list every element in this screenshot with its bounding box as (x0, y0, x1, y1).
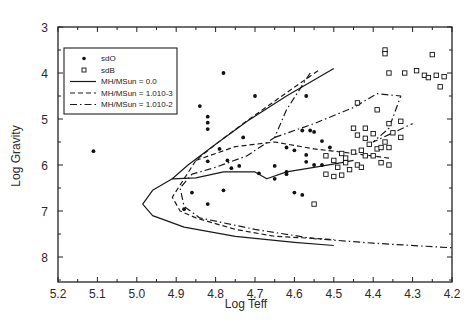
x-tick-label: 4.5 (325, 287, 342, 301)
sdo-point (304, 153, 308, 157)
legend: sdOsdBMH/MSun = 0.0MH/MSun = 1.010-3MH/M… (64, 48, 177, 114)
sdb-point (438, 85, 442, 89)
chart-canvas: 5.25.15.04.94.84.74.64.54.44.34.2345678 … (0, 0, 475, 334)
x-tick-label: 4.9 (168, 287, 185, 301)
sdb-point (355, 101, 359, 105)
sdb-point (359, 148, 363, 152)
sdo-point (92, 149, 96, 153)
sdo-point (293, 148, 297, 152)
sdo-point (222, 71, 226, 75)
sdb-point (324, 154, 328, 158)
legend-label: sdB (101, 66, 115, 75)
sdo-point (198, 104, 202, 108)
x-tick-label: 4.3 (404, 287, 421, 301)
sdb-point (363, 126, 367, 130)
sdb-point (399, 135, 403, 139)
sdo-point (206, 159, 210, 163)
sdb-point (399, 119, 403, 123)
sdb-point (347, 167, 351, 171)
sdb-point (387, 121, 391, 125)
sdb-point (359, 165, 363, 169)
x-tick-label: 4.2 (444, 287, 461, 301)
y-tick-label: 3 (41, 21, 48, 35)
sdb-point (339, 173, 343, 177)
sdo-point (320, 163, 324, 167)
x-tick-label: 5.2 (50, 287, 67, 301)
x-tick-label: 5.0 (128, 287, 145, 301)
sdb-point (375, 108, 379, 112)
sdo-point (320, 139, 324, 143)
sdo-point (285, 172, 289, 176)
x-tick-label: 4.6 (286, 287, 303, 301)
sdb-point (339, 151, 343, 155)
model-track-dashed (172, 71, 333, 240)
sdo-point (304, 160, 308, 164)
sdb-point (391, 131, 395, 135)
sdb-point (367, 142, 371, 146)
sdo-point (218, 147, 222, 151)
sdb-point (383, 51, 387, 55)
sdb-point (343, 156, 347, 160)
sdb-point (383, 140, 387, 144)
y-tick-label: 5 (41, 113, 48, 127)
model-track-solid (143, 179, 334, 246)
y-tick-label: 4 (41, 67, 48, 81)
sdb-point (434, 73, 438, 77)
model-track-dash-dot (180, 73, 452, 248)
sdb-point (387, 163, 391, 167)
sdo-point (300, 193, 304, 197)
legend-label: MH/MSun = 0.0 (101, 77, 157, 86)
x-tick-label: 4.4 (365, 287, 382, 301)
sdo-point (304, 94, 308, 98)
y-tick-label: 8 (41, 251, 48, 265)
sdo-point (206, 115, 210, 119)
sdb-point (371, 154, 375, 158)
sdo-point (182, 207, 186, 211)
sdb-point (387, 71, 391, 75)
sdo-point (293, 191, 297, 195)
sdo-point (226, 159, 230, 163)
y-tick-label: 6 (41, 159, 48, 173)
sdo-point (273, 177, 277, 181)
sdb-point (363, 136, 367, 140)
legend-label: MH/MSun = 1.010-2 (101, 100, 173, 109)
sdb-point (336, 165, 340, 169)
x-axis-title: Log Teff (225, 297, 268, 311)
sdo-point (222, 188, 226, 192)
sdo-point (328, 146, 332, 150)
sdo-point (273, 164, 277, 168)
sdb-point (363, 154, 367, 158)
sdb-point (379, 161, 383, 165)
x-tick-label: 4.8 (207, 287, 224, 301)
model-track-solid (172, 68, 353, 178)
sdb-point (332, 158, 336, 162)
x-tick-label: 5.1 (89, 287, 106, 301)
sdo-point (253, 94, 257, 98)
sdb-point (355, 133, 359, 137)
sdb-point (403, 71, 407, 75)
sdo-point (237, 164, 241, 168)
sdb-point (343, 161, 347, 165)
sdo-point (190, 191, 194, 195)
sdo-point (257, 171, 261, 175)
sdb-point (414, 69, 418, 73)
sdo-point (241, 136, 245, 140)
sdo-point (285, 146, 289, 150)
sdo-point (206, 121, 210, 125)
sdb-point (332, 174, 336, 178)
y-axis-title: Log Gravity (9, 125, 23, 186)
sdo-point (308, 129, 312, 133)
sdb-point (324, 172, 328, 176)
sdb-point (442, 74, 446, 78)
sdb-point (351, 150, 355, 154)
legend-label: MH/MSun = 1.010-3 (101, 89, 173, 98)
sdo-point (206, 127, 210, 131)
sdb-point (379, 145, 383, 149)
sdo-point (206, 202, 210, 206)
sdo-point (312, 163, 316, 167)
sdb-point (426, 75, 430, 79)
model-curves (143, 68, 452, 247)
legend-sdb-marker (82, 68, 86, 72)
sdb-point (312, 202, 316, 206)
legend-sdo-marker (82, 57, 86, 61)
